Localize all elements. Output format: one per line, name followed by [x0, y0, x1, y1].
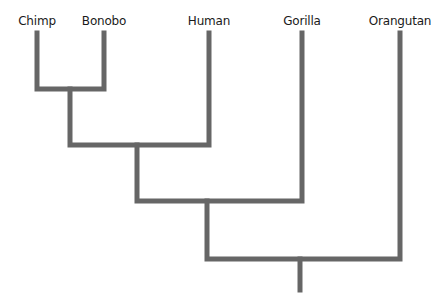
branch-gorilla-clade	[137, 33, 302, 201]
branch-chimp-bonobo	[37, 33, 104, 89]
tree-diagram	[0, 0, 442, 307]
